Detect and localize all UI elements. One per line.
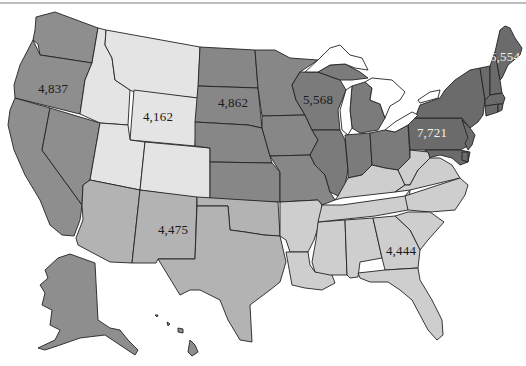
state-hawaii-islands [155, 315, 183, 333]
state-kansas[interactable] [210, 162, 280, 202]
label-southeast-value: 4,444 [386, 243, 416, 259]
state-ohio[interactable] [370, 125, 410, 170]
state-florida[interactable] [358, 268, 443, 340]
state-alaska[interactable] [38, 254, 138, 355]
state-north-dakota[interactable] [198, 47, 258, 88]
label-mountain-value: 4,162 [143, 109, 173, 125]
label-mid-atlantic-value: 7,721 [417, 125, 447, 141]
region-southwest [76, 180, 286, 342]
label-pacific-value: 4,837 [38, 81, 68, 97]
state-mississippi[interactable] [312, 220, 347, 275]
state-rhode-island[interactable] [498, 104, 503, 112]
state-hawaii[interactable] [188, 340, 198, 356]
label-east-north-central-value: 5,568 [303, 92, 333, 108]
us-map [0, 0, 526, 366]
label-west-north-central-value: 4,862 [218, 95, 248, 111]
state-connecticut[interactable] [485, 104, 498, 116]
state-arizona[interactable] [76, 180, 140, 263]
label-new-england-value: 6,554 [490, 49, 520, 65]
label-southwest-value: 4,475 [158, 222, 188, 238]
state-delaware[interactable] [462, 152, 468, 162]
